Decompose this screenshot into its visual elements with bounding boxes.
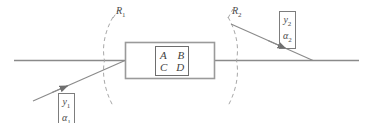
input-ray-vector-row-1: y1 bbox=[62, 96, 71, 112]
reference-plane-label-r2: R2 bbox=[232, 6, 242, 19]
reference-plane-arc-r2 bbox=[228, 17, 237, 106]
input-ray-vector-row-2: α1 bbox=[62, 112, 71, 123]
matrix-element-c: C bbox=[160, 61, 167, 73]
output-ray-vector-row-2: α2 bbox=[283, 30, 292, 46]
input-ray-line bbox=[33, 61, 125, 102]
reference-plane-label-r1: R1 bbox=[116, 6, 126, 19]
abcd-matrix: A B C D bbox=[155, 47, 189, 75]
matrix-element-a: A bbox=[160, 49, 167, 61]
matrix-element-d: D bbox=[176, 61, 184, 73]
ray-transfer-matrix-diagram: R1 R2 A B C D y1 α1 y2 α2 bbox=[0, 0, 373, 123]
abcd-matrix-row-2: C D bbox=[160, 61, 184, 73]
reference-plane-arc-r1 bbox=[104, 17, 113, 106]
input-ray-arrow bbox=[52, 86, 68, 93]
output-ray-vector: y2 α2 bbox=[279, 12, 296, 48]
input-ray-vector: y1 α1 bbox=[58, 94, 75, 123]
matrix-element-b: B bbox=[178, 49, 185, 61]
output-ray-vector-row-1: y2 bbox=[283, 14, 292, 30]
abcd-matrix-row-1: A B bbox=[160, 49, 184, 61]
